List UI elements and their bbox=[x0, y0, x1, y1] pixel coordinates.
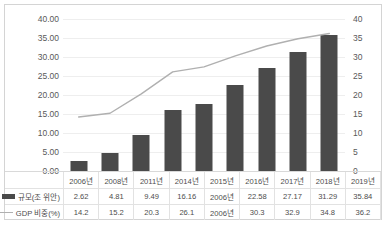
table-cell-bar-value: 9.49 bbox=[133, 189, 168, 204]
right-axis-tick: 40 bbox=[353, 14, 362, 24]
right-axis-tick: 5 bbox=[353, 147, 358, 157]
table-cell-category: 2016년 bbox=[239, 172, 274, 188]
legend-label-line: GDP 비중(%) bbox=[16, 207, 60, 218]
table-cell-category: 2006년 bbox=[63, 172, 98, 188]
table-row-categories: 2006년2008년2011년2014년2015년2016년2017년2018년… bbox=[5, 172, 381, 188]
left-axis-tick: 10.00 bbox=[38, 128, 59, 138]
table-cell-line-value: 34.8 bbox=[310, 205, 345, 220]
right-axis: 0510152025303540 bbox=[347, 19, 387, 171]
legend-label-bar: 규모(조 위안) bbox=[18, 191, 60, 202]
bar-swatch-icon bbox=[2, 194, 15, 199]
table-cell-category: 2011년 bbox=[133, 172, 168, 188]
table-cell-line-value: 2006년 bbox=[204, 205, 239, 220]
table-cell-category: 2017년 bbox=[274, 172, 309, 188]
table-cell-category: 2014년 bbox=[169, 172, 204, 188]
plot-area bbox=[63, 19, 345, 171]
table-cell-bar-value: 22.58 bbox=[239, 189, 274, 204]
left-axis-tick: 5.00 bbox=[42, 147, 59, 157]
right-axis-tick: 35 bbox=[353, 33, 362, 43]
table-cell-line-value: 15.2 bbox=[98, 205, 133, 220]
table-cell-category: 2019년 bbox=[345, 172, 381, 188]
left-axis-tick: 20.00 bbox=[38, 90, 59, 100]
table-cell-line-value: 26.1 bbox=[169, 205, 204, 220]
chart-container: 0.005.0010.0015.0020.0025.0030.0035.0040… bbox=[4, 4, 382, 220]
table-cell-bar-value: 16.16 bbox=[169, 189, 204, 204]
line-path-svg bbox=[63, 19, 345, 171]
right-axis-tick: 30 bbox=[353, 52, 362, 62]
table-cell-line-value: 30.3 bbox=[239, 205, 274, 220]
table-cell-bar-value: 2.62 bbox=[63, 189, 98, 204]
table-cell-bar-value: 31.29 bbox=[310, 189, 345, 204]
table-cell-category: 2018년 bbox=[310, 172, 345, 188]
table-cell-bar-value: 2006년 bbox=[204, 189, 239, 204]
table-row-line-series: GDP 비중(%) 14.215.220.326.12006년30.332.93… bbox=[5, 204, 381, 220]
left-axis-tick: 35.00 bbox=[38, 33, 59, 43]
legend-line: GDP 비중(%) bbox=[5, 207, 63, 218]
left-axis: 0.005.0010.0015.0020.0025.0030.0035.0040… bbox=[7, 19, 59, 171]
table-cell-category: 2015년 bbox=[204, 172, 239, 188]
table-cell-line-value: 36.2 bbox=[345, 205, 381, 220]
table-cell-line-value: 14.2 bbox=[63, 205, 98, 220]
table-cell-line-value: 20.3 bbox=[133, 205, 168, 220]
line-swatch-icon bbox=[0, 212, 13, 213]
table-cell-bar-value: 27.17 bbox=[274, 189, 309, 204]
left-axis-tick: 30.00 bbox=[38, 52, 59, 62]
table-row-bar-series: 규모(조 위안) 2.624.819.4916.162006년22.5827.1… bbox=[5, 188, 381, 204]
right-axis-tick: 25 bbox=[353, 71, 362, 81]
right-axis-tick: 10 bbox=[353, 128, 362, 138]
table-cell-line-value: 32.9 bbox=[274, 205, 309, 220]
left-axis-tick: 40.00 bbox=[38, 14, 59, 24]
legend-bar: 규모(조 위안) bbox=[5, 191, 63, 202]
table-cell-bar-value: 35.84 bbox=[345, 189, 381, 204]
right-axis-tick: 20 bbox=[353, 90, 362, 100]
left-axis-tick: 15.00 bbox=[38, 109, 59, 119]
left-axis-tick: 25.00 bbox=[38, 71, 59, 81]
data-table: 2006년2008년2011년2014년2015년2016년2017년2018년… bbox=[5, 171, 381, 220]
table-cell-bar-value: 4.81 bbox=[98, 189, 133, 204]
line-series bbox=[63, 19, 345, 171]
right-axis-tick: 15 bbox=[353, 109, 362, 119]
table-cell-category: 2008년 bbox=[98, 172, 133, 188]
